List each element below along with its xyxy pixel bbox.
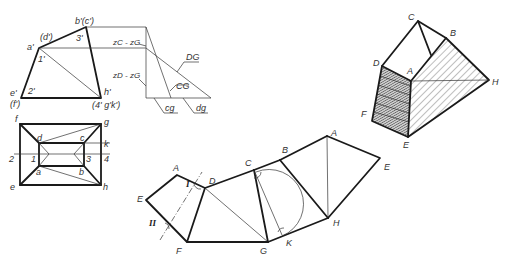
- line-A-H: [327, 136, 328, 218]
- label-H-iso: H: [492, 77, 499, 87]
- edge-C-G: [254, 170, 268, 242]
- label-E-net-left: E: [137, 194, 144, 204]
- label-B-net: B: [282, 145, 288, 155]
- label-A-net-left: A: [172, 163, 179, 173]
- label-f: (f'): [10, 99, 20, 109]
- top-view: f g d c k 2 1 3 4 a b e h: [8, 114, 110, 192]
- label-h: h': [104, 87, 111, 97]
- label-DG: DG: [186, 52, 200, 62]
- drawing-canvas: b'(c') (d') a' 3' 1' e' 2' (f') h' (4' g…: [0, 0, 509, 266]
- leader-DG: [177, 62, 199, 72]
- label-2-top: 2: [8, 154, 14, 164]
- isometric-view: C B D A H F E: [361, 12, 499, 150]
- fold-axis-I-II: [160, 172, 202, 240]
- label-c-top: c: [80, 133, 85, 143]
- label-zd-zg: zD - zG: [112, 71, 140, 80]
- face-ABH-hatch: [411, 38, 489, 81]
- label-A-iso: A: [406, 66, 413, 76]
- line-C-K: [254, 170, 282, 235]
- label-F-net: F: [176, 246, 182, 256]
- label-3: 3': [76, 33, 83, 43]
- section-left-v: [39, 143, 49, 166]
- face-DAEF-shade: [372, 66, 411, 137]
- label-e-top: e: [10, 182, 15, 192]
- label-K-net: K: [286, 238, 293, 248]
- label-D-net: D: [209, 176, 216, 186]
- edge-G-H: [268, 218, 328, 242]
- label-g-top: g: [104, 117, 109, 127]
- leader-zd: [139, 79, 146, 86]
- label-D-iso: D: [373, 58, 380, 68]
- edge-C-ridge: [418, 21, 431, 55]
- face-AEH: [327, 136, 380, 218]
- label-h-top: h: [103, 182, 108, 192]
- label-B-iso: B: [450, 28, 456, 38]
- edge-C-B: [254, 160, 280, 170]
- section-right-v: [74, 143, 84, 166]
- label-dg: dg: [196, 103, 206, 113]
- label-G-net: G: [260, 246, 267, 256]
- label-C-net: C: [245, 158, 252, 168]
- label-d: (d'): [40, 32, 53, 42]
- label-E-net-right: E: [384, 162, 391, 172]
- label-F-iso: F: [361, 109, 367, 119]
- edge-B-H: [280, 160, 328, 218]
- label-b-top: b: [79, 167, 84, 177]
- label-d-top: d: [37, 133, 43, 143]
- face-EADF: [146, 175, 205, 242]
- label-3-top: 3: [86, 154, 91, 164]
- label-C-iso: C: [408, 12, 415, 22]
- label-E-iso: E: [403, 140, 410, 150]
- label-e: e': [10, 88, 17, 98]
- label-4-g-k: (4' g'k'): [92, 100, 120, 110]
- label-CG-tl: CG: [176, 81, 190, 91]
- label-II: II: [148, 218, 157, 228]
- label-f-top: f: [15, 114, 19, 124]
- label-b-c: b'(c'): [75, 16, 94, 26]
- label-2: 2': [27, 86, 35, 96]
- label-k-top: k: [104, 139, 109, 149]
- label-a-top: a: [36, 167, 41, 177]
- true-length-construction: zC - zG zD - zG DG CG cg dg: [112, 27, 211, 113]
- true-length-CG: [146, 27, 171, 98]
- unfolded-net: E A I II D F C B G K A H E: [137, 128, 391, 256]
- label-I: I: [185, 179, 190, 189]
- label-zc-zg: zC - zG: [112, 38, 140, 47]
- label-1: 1': [38, 54, 45, 64]
- front-view: b'(c') (d') a' 3' 1' e' 2' (f') h' (4' g…: [10, 16, 146, 110]
- label-A-net-right: A: [330, 128, 337, 138]
- label-H-net: H: [333, 218, 340, 228]
- label-a: a': [27, 42, 34, 52]
- label-1-top: 1: [31, 154, 36, 164]
- top-inner-rect: [39, 143, 84, 166]
- label-4-top: 4: [104, 154, 109, 164]
- label-cg: cg: [165, 103, 175, 113]
